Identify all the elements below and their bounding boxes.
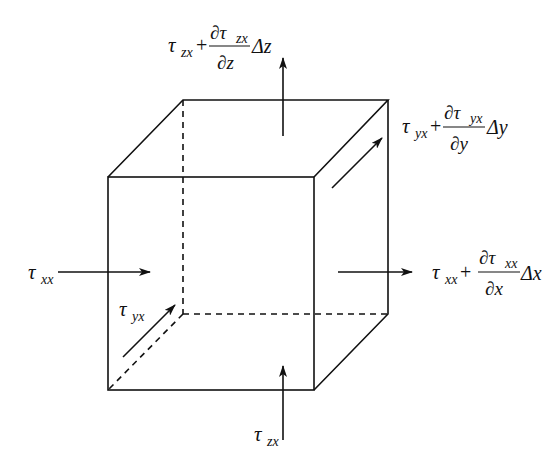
symbol-tau: τ bbox=[28, 260, 37, 284]
stress-cube-diagram: τ zx + ∂τ zx ∂z Δz τ yx + ∂τ yx ∂y Δy τ … bbox=[0, 0, 553, 460]
plus-sign: + bbox=[460, 261, 471, 283]
denominator: ∂y bbox=[450, 133, 468, 154]
subscript: xx bbox=[444, 272, 458, 287]
numerator: ∂τ bbox=[479, 247, 496, 268]
delta-term: Δx bbox=[520, 262, 542, 284]
denominator: ∂z bbox=[217, 52, 234, 73]
denominator: ∂x bbox=[485, 278, 503, 299]
symbol-tau: τ bbox=[119, 297, 128, 321]
label-right-back: τ yx + ∂τ yx ∂y Δy bbox=[402, 102, 508, 154]
symbol-tau: τ bbox=[432, 260, 441, 284]
cube-top-edges bbox=[108, 100, 388, 177]
cube-front-face bbox=[108, 177, 314, 390]
numerator-subscript: zx bbox=[235, 31, 248, 46]
delta-term: Δy bbox=[486, 116, 508, 139]
symbol-tau: τ bbox=[254, 422, 263, 446]
label-top: τ zx + ∂τ zx ∂z Δz bbox=[168, 22, 272, 73]
numerator-subscript: xx bbox=[504, 256, 518, 271]
plus-sign: + bbox=[196, 34, 207, 56]
plus-sign: + bbox=[430, 115, 441, 137]
label-left: τ xx bbox=[28, 260, 54, 287]
subscript: xx bbox=[40, 272, 54, 287]
numerator: ∂τ bbox=[210, 22, 227, 43]
symbol-tau: τ bbox=[168, 33, 177, 57]
label-bottom: τ zx bbox=[254, 422, 279, 449]
label-right: τ xx + ∂τ xx ∂x Δx bbox=[432, 247, 542, 299]
cube bbox=[108, 100, 388, 390]
subscript: yx bbox=[413, 126, 428, 141]
subscript: yx bbox=[130, 309, 145, 324]
numerator: ∂τ bbox=[444, 102, 461, 123]
subscript: zx bbox=[266, 434, 279, 449]
label-front-diag: τ yx bbox=[119, 297, 145, 324]
symbol-tau: τ bbox=[402, 114, 411, 138]
arrow-back-tau-yx bbox=[332, 138, 382, 188]
delta-term: Δz bbox=[251, 35, 272, 57]
numerator-subscript: yx bbox=[468, 111, 483, 126]
subscript: zx bbox=[180, 45, 193, 60]
